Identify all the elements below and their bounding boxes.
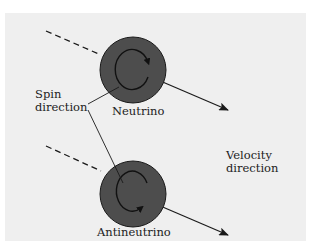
neutrino-velocity-arrow	[158, 80, 228, 110]
neutrino-particle	[100, 37, 166, 103]
neutrino-incoming-dashed-path	[46, 31, 101, 55]
spin-direction-label-line2: direction	[35, 101, 87, 114]
neutrino-spin-diagram	[0, 0, 319, 252]
spin-direction-label: Spin direction	[35, 88, 87, 114]
antineutrino-group	[46, 146, 228, 235]
neutrino-label: Neutrino	[112, 105, 164, 118]
velocity-direction-label: Velocity direction	[226, 149, 278, 175]
velocity-direction-label-line2: direction	[226, 162, 278, 175]
spin-pointer-line-antineutrino	[88, 110, 123, 183]
antineutrino-label: Antineutrino	[97, 226, 171, 239]
antineutrino-incoming-dashed-path	[46, 146, 101, 171]
